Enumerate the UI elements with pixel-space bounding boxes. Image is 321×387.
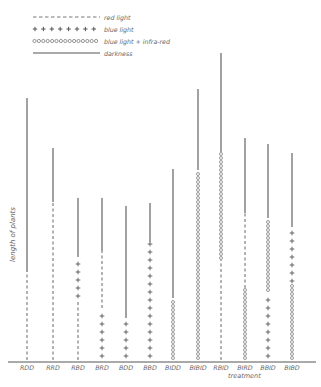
x-tick-label: BIBID: [189, 364, 206, 371]
legend: red lightblue lightblue light + infra-re…: [33, 14, 171, 57]
legend-item-circle: blue light + infra-red: [33, 38, 171, 46]
x-axis-label: treatment: [228, 372, 261, 380]
legend-item-dashed: red light: [33, 14, 131, 22]
bar-rbid: [220, 53, 223, 360]
bars: [27, 53, 294, 360]
x-tick-label: BRD: [95, 364, 109, 371]
x-tick-label: BIRD: [237, 364, 253, 371]
bar-bbd: [148, 203, 153, 358]
x-tick-label: BBD: [143, 364, 157, 371]
bar-bibd: [290, 153, 295, 360]
bar-bird: [244, 138, 247, 360]
x-tick-label: BIBD: [284, 364, 299, 371]
legend-item-solid: darkness: [33, 50, 133, 57]
legend-label: blue light + infra-red: [104, 38, 171, 46]
x-tick-label: RRD: [46, 364, 60, 371]
legend-item-plus: blue light: [33, 26, 134, 34]
bar-bibid: [197, 89, 200, 360]
legend-label: blue light: [104, 26, 134, 34]
plant-length-diagram: red lightblue lightblue light + infra-re…: [0, 0, 321, 387]
legend-label: red light: [104, 14, 131, 22]
x-tick-label: BDD: [119, 364, 133, 371]
x-tick-labels: RDDRRDRBDBRDBDDBBDBIDDBIBIDRBIDBIRDBBIDB…: [20, 364, 300, 371]
x-tick-label: BIDD: [165, 364, 181, 371]
x-tick-label: RDD: [20, 364, 34, 371]
x-tick-label: RBD: [71, 364, 85, 371]
bar-brd: [100, 198, 105, 358]
bar-bidd: [172, 169, 175, 360]
y-axis-label: length of plants: [9, 207, 17, 262]
bar-bdd: [124, 206, 129, 358]
bar-bbid: [266, 144, 271, 358]
x-tick-label: RBID: [213, 364, 229, 371]
bar-rbd: [76, 198, 81, 360]
x-tick-label: BBID: [260, 364, 275, 371]
legend-label: darkness: [104, 50, 133, 57]
